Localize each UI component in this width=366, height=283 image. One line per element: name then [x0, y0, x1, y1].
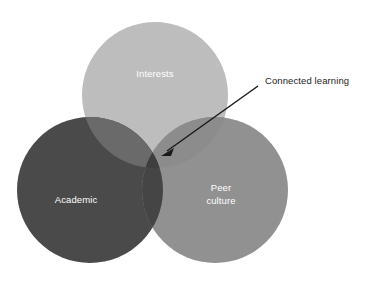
circle-label-interests: Interests [136, 68, 173, 79]
circle-label-academic: Academic [55, 194, 98, 205]
venn-diagram: Interests Academic Peer culture Connecte… [0, 0, 366, 283]
circle-label-peer-culture-line1: Peer [211, 182, 231, 193]
circle-label-peer-culture-line2: culture [206, 195, 235, 206]
venn-diagram-canvas: Interests Academic Peer culture Connecte… [0, 0, 366, 283]
annotation-connected-learning: Connected learning [265, 75, 349, 86]
